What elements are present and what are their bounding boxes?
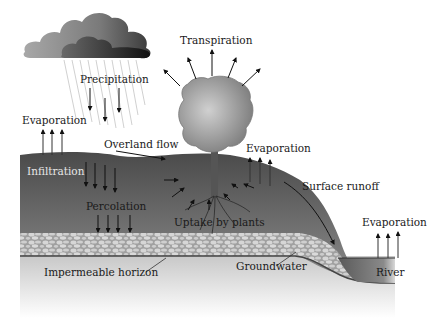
evaporation-left-arrows <box>43 130 62 155</box>
label-transpiration: Transpiration <box>180 34 253 46</box>
label-uptake-by-plants: Uptake by plants <box>174 216 265 228</box>
label-river: River <box>376 266 405 278</box>
label-surface-runoff: Surface runoff <box>302 180 380 192</box>
label-precipitation: Precipitation <box>80 73 149 85</box>
label-percolation: Percolation <box>86 200 147 212</box>
label-evaporation-left: Evaporation <box>22 114 87 126</box>
evaporation-river-arrows <box>378 232 398 258</box>
label-overland-flow: Overland flow <box>104 138 179 150</box>
water-cycle-diagram: Transpiration Precipitation Evaporation … <box>0 0 439 323</box>
label-infiltration: Infiltration <box>27 165 85 177</box>
label-impermeable-horizon: Impermeable horizon <box>44 266 158 278</box>
label-evaporation-middle: Evaporation <box>246 142 311 154</box>
cloud-icon <box>24 13 151 58</box>
label-groundwater: Groundwater <box>236 260 308 272</box>
label-evaporation-river: Evaporation <box>362 216 427 228</box>
